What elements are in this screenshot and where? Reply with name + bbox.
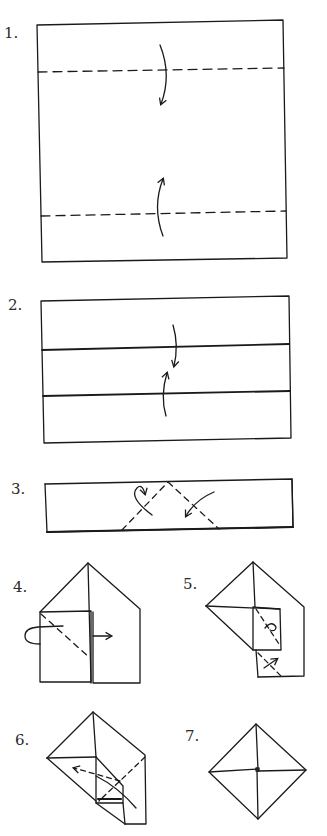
step-6-diagram [47, 712, 146, 824]
step-2-diagram [41, 296, 291, 443]
origami-diagram [0, 0, 327, 836]
step-4-diagram [25, 563, 140, 683]
step-7-diagram [209, 724, 306, 819]
fold-down-arrow-icon [160, 45, 166, 104]
step-1-diagram [37, 20, 287, 262]
fold-in-arrow-icon [186, 492, 214, 516]
fold-behind-arrow-icon [135, 486, 152, 515]
step-3-diagram [45, 479, 293, 532]
fold-up-arrow-icon [158, 179, 164, 236]
fold-up-arrow-icon [163, 373, 167, 416]
step-5-diagram [206, 562, 304, 677]
fold-down-arrow-icon [173, 325, 176, 366]
